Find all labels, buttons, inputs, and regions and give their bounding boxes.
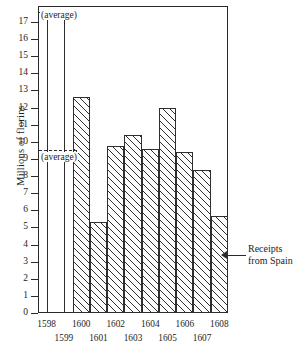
- x-tick-label-1602: 1602: [106, 319, 125, 329]
- bar-1603: [124, 135, 141, 313]
- y-tick-label-12: 12: [2, 103, 28, 113]
- x-tick-label-1608: 1608: [210, 319, 229, 329]
- y-tick-label-7: 7: [2, 188, 28, 198]
- x-tick-label-1603: 1603: [124, 333, 143, 343]
- bar-spike-1598: [47, 14, 48, 313]
- x-tick-label-1607: 1607: [193, 333, 212, 343]
- y-tick-label-9: 9: [2, 154, 28, 164]
- x-tick-label-1601: 1601: [89, 333, 108, 343]
- bar-1605: [159, 108, 176, 313]
- average-lower-label: (average): [40, 152, 78, 162]
- y-tick-13: [31, 90, 38, 91]
- y-tick-label-8: 8: [2, 171, 28, 181]
- bar-1599: [55, 14, 72, 313]
- x-tick-label-1600: 1600: [72, 319, 91, 329]
- x-tick-label-1606: 1606: [176, 319, 195, 329]
- y-tick-11: [31, 125, 38, 126]
- bar-spike-1599: [64, 14, 65, 313]
- x-tick-label-1598: 1598: [37, 319, 56, 329]
- y-tick-7: [31, 193, 38, 194]
- bar-1608: [211, 216, 228, 313]
- y-tick-1: [31, 296, 38, 297]
- y-tick-16: [31, 39, 38, 40]
- callout-leader-line: [227, 255, 246, 256]
- x-tick-label-1605: 1605: [158, 333, 177, 343]
- y-tick-label-15: 15: [2, 51, 28, 61]
- series-callout-label: Receipts from Spain: [248, 243, 293, 266]
- callout-line-2: from Spain: [248, 255, 293, 267]
- y-tick-label-10: 10: [2, 137, 28, 147]
- y-tick-17: [31, 22, 38, 23]
- y-tick-label-13: 13: [2, 85, 28, 95]
- y-tick-9: [31, 159, 38, 160]
- x-tick-label-1599: 1599: [55, 333, 74, 343]
- y-tick-3: [31, 262, 38, 263]
- y-tick-12: [31, 108, 38, 109]
- y-tick-label-0: 0: [2, 308, 28, 318]
- y-tick-label-5: 5: [2, 222, 28, 232]
- bar-1602: [107, 146, 124, 313]
- y-tick-label-14: 14: [2, 68, 28, 78]
- y-tick-4: [31, 245, 38, 246]
- y-tick-5: [31, 227, 38, 228]
- y-tick-15: [31, 56, 38, 57]
- callout-line-1: Receipts: [248, 243, 293, 255]
- y-tick-label-6: 6: [2, 205, 28, 215]
- y-tick-8: [31, 176, 38, 177]
- y-tick-14: [31, 73, 38, 74]
- bar-1604: [142, 149, 159, 313]
- y-tick-label-17: 17: [2, 17, 28, 27]
- y-tick-label-11: 11: [2, 120, 28, 130]
- y-tick-label-2: 2: [2, 274, 28, 284]
- y-tick-10: [31, 142, 38, 143]
- average-upper-label: (average): [40, 10, 78, 20]
- bar-1598: [38, 14, 55, 313]
- y-tick-2: [31, 279, 38, 280]
- bar-1606: [176, 152, 193, 313]
- bar-1607: [193, 170, 210, 313]
- bar-1601: [90, 222, 107, 313]
- y-tick-label-4: 4: [2, 240, 28, 250]
- bar-1600: [73, 97, 90, 313]
- y-tick-label-16: 16: [2, 34, 28, 44]
- y-tick-6: [31, 210, 38, 211]
- y-tick-label-3: 3: [2, 257, 28, 267]
- bar-chart-figure: Millions of florins 01234567891011121314…: [0, 0, 307, 357]
- x-tick-label-1604: 1604: [141, 319, 160, 329]
- y-tick-label-1: 1: [2, 291, 28, 301]
- y-tick-0: [31, 313, 38, 314]
